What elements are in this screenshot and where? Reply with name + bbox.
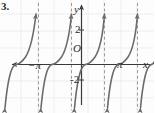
curve-branch [5,65,16,109]
question-number: 3. [1,1,9,12]
curve-branch [86,14,105,65]
x-tick-label-neg-pi: −π [28,60,41,71]
origin-label: O [73,43,81,54]
curve-branch [41,65,52,109]
x-axis-label: x [143,59,148,70]
x-tick-label-pi: π [117,59,123,70]
figure-container: 3. y x O 2 -2 −π π [0,0,154,113]
y-tick-label-2: 2 [75,24,81,35]
curve-branch [152,62,155,65]
grid-lines [0,0,154,113]
curve-branch [108,65,119,109]
curve-branch [52,14,72,65]
curve-branch [16,14,36,65]
tangent-graph [0,0,154,113]
y-axis-label: y [74,4,79,15]
curve-branch [141,65,152,109]
curve-branch [75,65,86,109]
curve-branch [119,14,138,65]
y-tick-label-neg2: -2 [70,74,79,85]
